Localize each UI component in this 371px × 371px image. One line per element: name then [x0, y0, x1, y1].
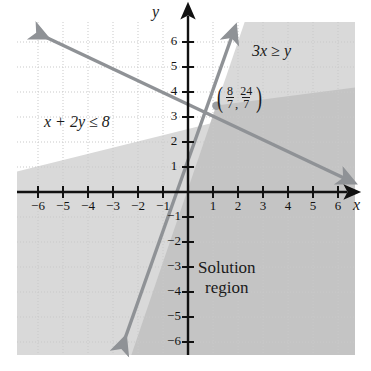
y-tick-label: 6	[171, 33, 178, 49]
solution-region-line2: region	[198, 278, 256, 298]
solution-region-line1: Solution	[198, 258, 256, 278]
y-tick-label: 5	[171, 58, 178, 74]
y-denominator: 7	[242, 97, 250, 110]
x-tick-label: 4	[285, 198, 292, 214]
x-numerator: 8	[226, 85, 234, 97]
y-tick-label: 3	[171, 108, 178, 124]
x-tick-label: −3	[106, 198, 120, 214]
x-tick-label: 3	[260, 198, 267, 214]
y-tick-label: −1	[167, 208, 181, 224]
inequality-label-left: x + 2y ≤ 8	[44, 114, 110, 131]
y-axis-label: y	[152, 4, 159, 21]
intersection-point-label: ( 8 7 , 24 7 )	[215, 82, 264, 112]
x-tick-label: 2	[235, 198, 242, 214]
x-tick-label: −2	[131, 198, 145, 214]
y-tick-label: −3	[167, 258, 181, 274]
y-coordinate-fraction: 24 7	[239, 85, 253, 110]
y-tick-label: −4	[167, 283, 181, 299]
open-paren: (	[217, 82, 223, 112]
y-tick-label: 4	[171, 83, 178, 99]
y-tick-label: −2	[167, 233, 181, 249]
close-paren: )	[256, 82, 262, 112]
y-tick-label: 1	[171, 158, 178, 174]
x-tick-label: −5	[56, 198, 70, 214]
x-tick-label: −6	[31, 198, 45, 214]
x-tick-label: 1	[210, 198, 217, 214]
y-tick-label: −5	[167, 308, 181, 324]
solution-region-label: Solution region	[198, 258, 256, 298]
y-tick-label: 2	[171, 133, 178, 149]
x-tick-label: 6	[335, 198, 342, 214]
y-numerator: 24	[239, 85, 253, 97]
y-tick-label: −6	[167, 333, 181, 349]
x-axis-label: x	[353, 197, 360, 214]
x-tick-label: 5	[310, 198, 317, 214]
inequality-graph-figure: y x x + 2y ≤ 8 3x ≥ y ( 8 7 , 24 7 ) Sol…	[0, 0, 371, 371]
x-coordinate-fraction: 8 7	[226, 85, 234, 110]
x-denominator: 7	[226, 97, 234, 110]
inequality-label-right: 3x ≥ y	[252, 43, 291, 60]
coordinate-comma: ,	[235, 97, 238, 112]
coordinate-plane	[0, 0, 371, 371]
x-tick-label: −4	[81, 198, 95, 214]
